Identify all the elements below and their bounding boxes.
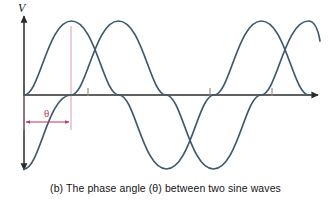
figure-caption: (b) The phase angle (θ) between two sine… bbox=[0, 181, 331, 195]
phase-angle-symbol: θ bbox=[44, 107, 49, 119]
plot-area: V θ bbox=[0, 0, 331, 180]
y-axis-label: V bbox=[18, 1, 27, 15]
phase-angle-figure: V θ (b) The phase angle (θ) between two … bbox=[0, 0, 331, 201]
sine-wave-plot: V θ bbox=[0, 0, 331, 180]
